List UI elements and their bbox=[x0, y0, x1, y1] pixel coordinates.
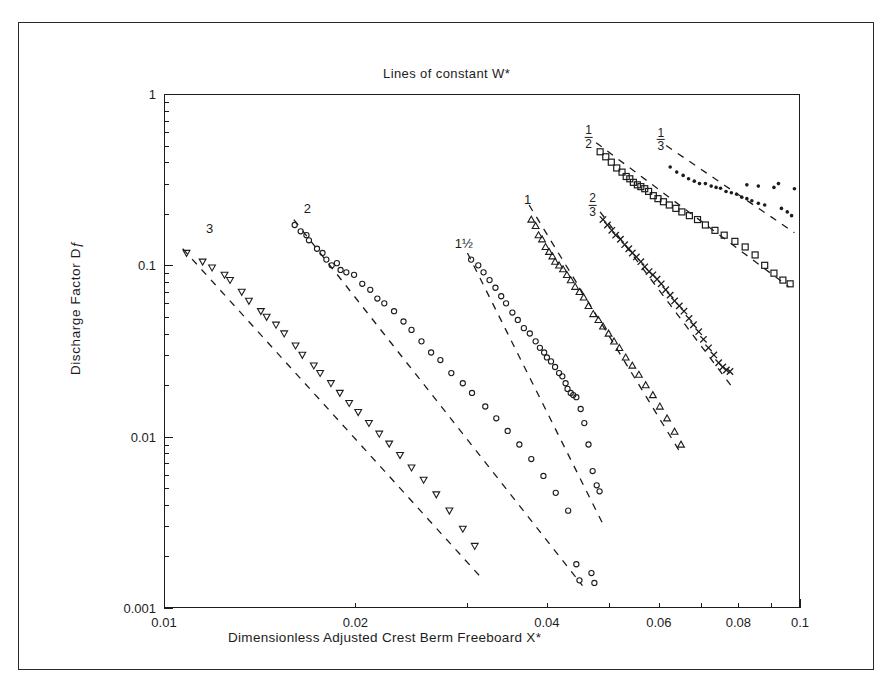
x-tick bbox=[771, 603, 772, 608]
data-point-marker bbox=[780, 207, 784, 211]
data-point-marker bbox=[592, 580, 597, 585]
data-point-marker bbox=[757, 202, 761, 206]
x-tick bbox=[355, 603, 356, 608]
data-point-marker bbox=[563, 271, 570, 277]
data-point-marker bbox=[317, 370, 324, 376]
data-point-marker bbox=[419, 339, 424, 344]
data-point-marker bbox=[209, 265, 216, 271]
data-point-marker bbox=[600, 216, 606, 222]
x-tick bbox=[467, 603, 468, 608]
data-point-marker bbox=[666, 202, 672, 208]
y-tick bbox=[164, 282, 169, 283]
data-point-marker bbox=[616, 344, 623, 350]
data-point-marker bbox=[409, 327, 414, 332]
data-point-marker bbox=[469, 390, 474, 395]
data-point-marker bbox=[560, 374, 565, 379]
data-point-marker bbox=[679, 209, 685, 215]
data-point-marker bbox=[719, 186, 723, 190]
data-point-marker bbox=[681, 174, 685, 178]
data-point-marker bbox=[582, 421, 587, 426]
data-point-marker bbox=[529, 456, 534, 461]
data-point-marker bbox=[542, 244, 549, 250]
data-point-marker bbox=[542, 350, 547, 355]
data-point-marker bbox=[752, 252, 758, 258]
data-point-marker bbox=[745, 197, 749, 201]
x-tick-label: 0.06 bbox=[646, 615, 671, 630]
data-point-marker bbox=[714, 186, 718, 190]
x-tick bbox=[701, 603, 702, 608]
data-point-marker bbox=[698, 182, 702, 186]
data-point-marker bbox=[692, 179, 696, 183]
trend-line bbox=[183, 249, 479, 576]
data-point-marker bbox=[376, 431, 383, 437]
x-tick bbox=[738, 603, 739, 608]
data-point-marker bbox=[527, 331, 532, 336]
data-point-marker bbox=[493, 285, 498, 290]
x-tick-label: 0.1 bbox=[791, 615, 809, 630]
y-tick bbox=[164, 488, 169, 489]
data-point-marker bbox=[690, 322, 696, 328]
x-tick-label: 0.02 bbox=[343, 615, 368, 630]
x-tick bbox=[164, 599, 165, 608]
y-tick bbox=[164, 463, 169, 464]
trend-line bbox=[529, 205, 682, 455]
data-point-marker bbox=[306, 238, 311, 243]
x-tick bbox=[609, 603, 610, 608]
data-point-marker bbox=[533, 339, 538, 344]
data-point-marker bbox=[664, 415, 671, 421]
data-point-marker bbox=[324, 257, 329, 262]
y-tick bbox=[164, 355, 169, 356]
curve-label-2: 2 bbox=[304, 202, 311, 215]
x-tick bbox=[547, 603, 548, 608]
y-tick bbox=[164, 475, 169, 476]
y-tick bbox=[164, 556, 169, 557]
y-tick bbox=[164, 94, 173, 95]
data-point-marker bbox=[446, 508, 453, 514]
data-point-marker bbox=[366, 421, 373, 427]
data-point-marker bbox=[790, 214, 794, 218]
data-point-marker bbox=[668, 165, 672, 169]
data-point-marker bbox=[553, 490, 558, 495]
x-tick bbox=[659, 603, 660, 608]
data-point-marker bbox=[351, 272, 356, 277]
data-point-marker bbox=[705, 345, 711, 351]
data-point-marker bbox=[572, 283, 579, 289]
data-point-marker bbox=[687, 177, 691, 181]
data-point-marker bbox=[338, 267, 343, 272]
data-point-marker bbox=[785, 210, 789, 214]
data-point-marker bbox=[299, 352, 306, 358]
data-point-marker bbox=[273, 322, 280, 328]
series-1 bbox=[528, 205, 685, 455]
data-point-marker bbox=[563, 381, 568, 386]
y-tick bbox=[164, 385, 169, 386]
curve-label-1: 1 bbox=[524, 192, 531, 205]
data-point-marker bbox=[595, 317, 602, 323]
curve-label-12: 12 bbox=[584, 124, 593, 150]
data-point-marker bbox=[433, 492, 440, 498]
data-point-marker bbox=[537, 345, 542, 350]
data-point-marker bbox=[711, 352, 717, 358]
data-point-marker bbox=[730, 191, 734, 195]
data-point-marker bbox=[408, 465, 415, 471]
data-point-marker bbox=[750, 199, 754, 203]
data-point-marker bbox=[735, 192, 739, 196]
data-point-marker bbox=[704, 182, 708, 186]
y-tick bbox=[164, 184, 169, 185]
data-point-marker bbox=[257, 309, 264, 315]
data-point-marker bbox=[292, 222, 297, 227]
y-tick bbox=[164, 292, 169, 293]
data-point-marker bbox=[745, 183, 749, 187]
data-point-marker bbox=[386, 441, 393, 447]
x-tick-label: 0.08 bbox=[726, 615, 751, 630]
data-point-marker bbox=[675, 170, 679, 174]
data-point-marker bbox=[314, 246, 319, 251]
data-point-marker bbox=[635, 371, 642, 377]
data-point-marker bbox=[742, 244, 748, 250]
data-point-marker bbox=[310, 363, 317, 369]
data-point-marker bbox=[556, 370, 561, 375]
curve-label-23: 23 bbox=[588, 192, 597, 218]
data-point-marker bbox=[517, 442, 522, 447]
data-point-marker bbox=[577, 578, 582, 583]
data-point-marker bbox=[589, 570, 594, 575]
y-tick-label: 0.1 bbox=[102, 258, 156, 273]
